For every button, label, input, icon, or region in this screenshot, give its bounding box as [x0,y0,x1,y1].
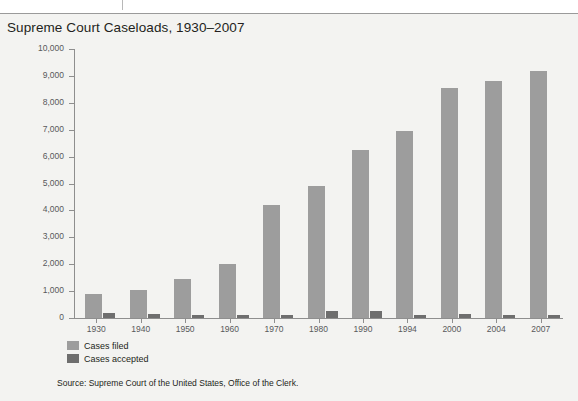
legend-item-label: Cases filed [84,341,129,351]
plot-area [74,49,563,318]
bar-cases-accepted [548,315,560,318]
chart-page: Supreme Court Caseloads, 1930–2007 10,00… [0,0,578,401]
bar-cases-filed [219,264,236,318]
x-axis-tick-label: 1940 [118,324,162,334]
bar-cases-filed [174,279,191,318]
y-axis-tick-label: 7,000 [43,124,64,134]
page-title: Supreme Court Caseloads, 1930–2007 [7,20,245,35]
legend-item: Cases filed [67,340,149,351]
page-top-margin [0,0,578,13]
x-axis-tick-label: 1970 [252,324,296,334]
bar-cases-accepted [237,315,249,318]
bar-cases-filed [130,290,147,318]
y-axis-tick-label: 2,000 [43,258,64,268]
x-axis-tick-label: 1990 [341,324,385,334]
bar-cases-accepted [414,315,426,318]
x-axis-tick-label: 2000 [430,324,474,334]
y-axis-tick-label: 4,000 [43,204,64,214]
y-axis-tick-label: 9,000 [43,70,64,80]
x-axis-tick-label: 1960 [207,324,251,334]
y-axis-tick-label: 10,000 [38,43,64,53]
y-axis-tick-label: 8,000 [43,97,64,107]
bar-group [441,49,471,318]
x-axis-tick-label: 2004 [474,324,518,334]
bar-cases-filed [308,186,325,318]
x-axis-tick-mark [96,319,97,323]
x-axis-tick-mark [319,319,320,323]
x-axis-tick-mark [407,319,408,323]
bar-group [485,49,515,318]
bar-cases-accepted [281,315,293,318]
bar-cases-filed [352,150,369,318]
bar-group [130,49,160,318]
bar-cases-accepted [148,314,160,318]
y-axis-tick-label: 3,000 [43,231,64,241]
bar-cases-accepted [503,315,515,318]
bar-group [263,49,293,318]
y-axis-tick-mark [69,318,74,319]
bar-cases-filed [485,81,502,318]
bar-group [219,49,249,318]
bar-cases-filed [441,88,458,318]
x-axis-tick-mark [541,319,542,323]
bar-cases-accepted [459,314,471,318]
bar-cases-accepted [192,315,204,318]
bar-cases-filed [85,294,102,318]
x-axis-tick-mark [496,319,497,323]
x-axis-tick-mark [274,319,275,323]
bar-group [530,49,560,318]
bar-cases-filed [263,205,280,318]
bar-group [352,49,382,318]
x-axis-tick-label: 2007 [519,324,563,334]
y-axis-tick-label: 1,000 [43,285,64,295]
x-axis-tick-label: 1980 [296,324,340,334]
legend-item-label: Cases accepted [84,354,149,364]
y-axis-tick-label: 0 [59,312,64,322]
bar-group [308,49,338,318]
y-axis-tick-label: 6,000 [43,151,64,161]
x-axis-tick-label: 1994 [385,324,429,334]
top-tick-mark [122,0,123,10]
source-note: Source: Supreme Court of the United Stat… [57,378,298,388]
x-axis-tick-mark [363,319,364,323]
y-axis-tick-label: 5,000 [43,178,64,188]
bar-group [85,49,115,318]
legend-swatch-icon [67,354,79,363]
x-axis-tick-mark [230,319,231,323]
chart-legend: Cases filedCases accepted [67,340,149,366]
legend-swatch-icon [67,341,79,350]
x-axis-tick-mark [185,319,186,323]
x-axis-tick-mark [141,319,142,323]
bar-cases-accepted [326,311,338,318]
x-axis-tick-label: 1930 [74,324,118,334]
bar-group [174,49,204,318]
bar-cases-filed [530,71,547,318]
bar-cases-accepted [370,311,382,318]
legend-item: Cases accepted [67,353,149,364]
top-horizontal-rule [0,13,578,14]
bar-group [396,49,426,318]
x-axis-tick-mark [452,319,453,323]
x-axis-tick-label: 1950 [163,324,207,334]
bar-cases-accepted [103,313,115,318]
bar-cases-filed [396,131,413,318]
